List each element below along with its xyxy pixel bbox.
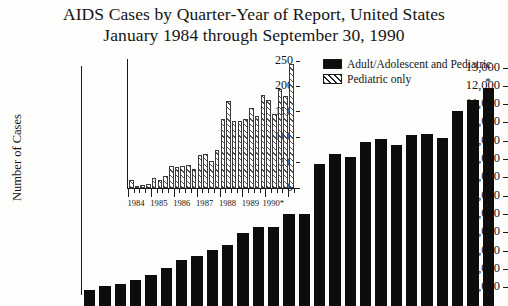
inset-bar (152, 178, 157, 188)
inset-bar (266, 100, 271, 188)
inset-bar (140, 185, 145, 188)
inset-bar (289, 64, 294, 188)
inset-x-axis-year-tick (288, 189, 289, 197)
main-bar (375, 139, 386, 306)
main-bar (406, 135, 417, 306)
main-bar (84, 290, 95, 306)
main-bar (483, 88, 494, 306)
main-bar (115, 284, 126, 306)
main-bar (222, 245, 233, 306)
inset-x-axis-quarter-tick (202, 189, 203, 193)
inset-x-axis-label: 1988 (216, 198, 240, 208)
main-bar (237, 233, 248, 306)
inset-bar (238, 121, 243, 188)
inset-x-axis-quarter-tick (191, 189, 192, 193)
main-bar (299, 214, 310, 306)
inset-bar (243, 119, 248, 188)
main-bar (314, 164, 325, 306)
inset-y-axis-tick-mark (296, 188, 301, 189)
inset-x-axis-quarter-tick (282, 189, 283, 193)
inset-chart: 250200150100500 198419851986198719881989… (86, 57, 300, 209)
main-bar (421, 134, 432, 306)
main-bar (467, 100, 478, 306)
inset-y-axis-tick-mark (296, 86, 301, 87)
inset-x-axis-quarter-tick (271, 189, 272, 193)
main-bar (329, 154, 340, 306)
inset-bar (158, 180, 163, 188)
inset-y-axis-line (127, 59, 128, 188)
inset-x-axis-label: 1986 (170, 198, 194, 208)
inset-x-axis-quarter-tick (225, 189, 226, 193)
inset-x-axis-quarter-tick (294, 189, 295, 193)
inset-bar (255, 116, 260, 188)
main-bar (176, 260, 187, 306)
inset-bar (209, 161, 214, 188)
inset-bar (283, 96, 288, 188)
inset-bar (215, 150, 220, 188)
inset-x-axis-quarter-tick (162, 189, 163, 193)
inset-x-axis-year-tick (220, 189, 221, 197)
inset-x-axis-quarter-tick (168, 189, 169, 193)
main-bar (191, 256, 202, 306)
inset-x-axis-quarter-tick (231, 189, 232, 193)
inset-x-axis-label: 1987 (193, 198, 217, 208)
inset-bar (272, 114, 277, 188)
inset-bar (261, 95, 266, 188)
inset-bar (226, 101, 231, 188)
main-bar (452, 111, 463, 306)
main-bar (99, 286, 110, 306)
inset-x-axis-year-tick (128, 189, 129, 197)
inset-x-axis-quarter-tick (179, 189, 180, 193)
inset-bar (146, 184, 151, 188)
main-bar (437, 138, 448, 306)
main-bar (268, 227, 279, 306)
inset-bar (278, 89, 283, 188)
inset-x-axis-quarter-tick (260, 189, 261, 193)
inset-y-axis-tick-mark (296, 111, 301, 112)
main-bar (345, 157, 356, 306)
main-bar (130, 280, 141, 306)
inset-bar (192, 169, 197, 188)
inset-x-axis-quarter-tick (277, 189, 278, 193)
inset-x-axis-year-tick (242, 189, 243, 197)
inset-bar (186, 165, 191, 188)
inset-x-axis-quarter-tick (134, 189, 135, 193)
main-bar (207, 250, 218, 306)
inset-bar (232, 121, 237, 188)
inset-x-axis-year-tick (197, 189, 198, 197)
main-bar (360, 142, 371, 306)
inset-x-axis-quarter-tick (237, 189, 238, 193)
inset-bar (163, 176, 168, 188)
main-bar (283, 214, 294, 306)
inset-x-axis-line (127, 188, 298, 189)
inset-bar (198, 155, 203, 188)
inset-bar (169, 166, 174, 188)
inset-y-axis-tick-mark (296, 137, 301, 138)
main-bar (391, 145, 402, 306)
inset-x-axis-quarter-tick (145, 189, 146, 193)
inset-bar (180, 166, 185, 188)
inset-bar (221, 119, 226, 188)
inset-x-axis-quarter-tick (248, 189, 249, 193)
main-bar (161, 268, 172, 306)
inset-x-axis-quarter-tick (157, 189, 158, 193)
inset-x-axis-label: 1984 (124, 198, 148, 208)
inset-y-axis-tick-mark (296, 162, 301, 163)
inset-x-axis-quarter-tick (214, 189, 215, 193)
main-bar (145, 275, 156, 306)
inset-bar (135, 186, 140, 188)
inset-y-axis-tick-mark (296, 61, 301, 62)
inset-bar (249, 108, 254, 188)
main-bar (253, 227, 264, 306)
inset-x-axis-quarter-tick (139, 189, 140, 193)
inset-x-axis-year-tick (151, 189, 152, 197)
inset-bar (203, 154, 208, 188)
inset-x-axis-quarter-tick (254, 189, 255, 193)
inset-x-axis-year-tick (265, 189, 266, 197)
inset-x-axis-quarter-tick (208, 189, 209, 193)
inset-x-axis-label: 1990* (261, 198, 285, 208)
inset-x-axis-year-tick (174, 189, 175, 197)
inset-x-axis-label: 1989 (238, 198, 262, 208)
inset-bar (129, 180, 134, 188)
